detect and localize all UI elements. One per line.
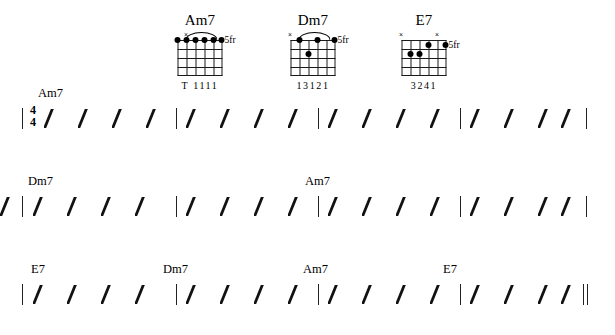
rhythm-slash — [504, 109, 514, 128]
fret-line — [402, 67, 447, 68]
barline-end — [586, 196, 587, 217]
barline — [22, 196, 23, 217]
finger-dot — [184, 37, 190, 43]
staff-system-3: E7 Dm7 Am7 E7 — [0, 262, 615, 320]
muted-string-x-icon: × — [435, 31, 439, 38]
slash-notation-row — [0, 192, 615, 222]
fret-line — [178, 67, 223, 68]
chord-diagram-am7[interactable]: Am7 — [145, 12, 255, 91]
finger-dot — [211, 37, 217, 43]
muted-string-x-icon: × — [399, 31, 403, 38]
chord-diagram-name: E7 — [369, 12, 479, 28]
rhythm-slash — [254, 109, 264, 128]
rhythm-slash — [362, 109, 372, 128]
rhythm-slash — [101, 197, 111, 216]
rhythm-slash — [288, 285, 298, 304]
chord-diagram-grid: × × 5fr — [402, 40, 447, 76]
chord-diagram-name: Am7 — [145, 12, 255, 28]
fret-line — [402, 49, 447, 50]
chord-label: Am7 — [38, 86, 63, 100]
fret-line — [402, 40, 447, 41]
barline — [22, 108, 23, 129]
chord-label-row: Dm7 Am7 — [0, 174, 615, 192]
rhythm-slash — [561, 197, 571, 216]
finger-dot — [202, 37, 208, 43]
rhythm-slash — [470, 109, 480, 128]
rhythm-slash — [33, 197, 43, 216]
muted-string-x-icon: × — [288, 31, 292, 38]
rhythm-slash — [135, 285, 145, 304]
fret-line — [178, 75, 223, 76]
fret-line — [291, 75, 336, 76]
rhythm-slash — [561, 285, 571, 304]
rhythm-slash — [504, 285, 514, 304]
barline — [460, 108, 461, 129]
rhythm-slash — [504, 197, 514, 216]
fret-line — [402, 75, 447, 76]
rhythm-slash — [146, 109, 156, 128]
staff-system-2: Dm7 Am7 — [0, 174, 615, 232]
final-barline — [583, 284, 584, 305]
fretboard-grid: × × 5fr — [402, 40, 447, 76]
chord-diagram-name: Dm7 — [258, 12, 368, 28]
barline-end — [586, 108, 587, 129]
chord-label: E7 — [31, 262, 45, 276]
fret-line — [291, 49, 336, 50]
rhythm-slash — [470, 197, 480, 216]
rhythm-slash — [67, 285, 77, 304]
chord-label: Dm7 — [163, 262, 188, 276]
fret-position-label: 5fr — [449, 41, 460, 51]
barline — [176, 108, 177, 129]
rhythm-slash — [254, 197, 264, 216]
finger-dot — [193, 37, 199, 43]
rhythm-slash — [470, 285, 480, 304]
rhythm-slash — [362, 285, 372, 304]
chord-diagram-grid-wrap: × 5fr — [145, 30, 255, 76]
rhythm-slash — [538, 285, 548, 304]
barline — [318, 108, 319, 129]
fretboard-grid: × 5fr — [178, 40, 223, 76]
rhythm-slash — [44, 109, 54, 128]
rhythm-slash — [430, 109, 440, 128]
barline — [460, 196, 461, 217]
fret-position-label: 5fr — [225, 36, 236, 46]
rhythm-slash — [220, 197, 230, 216]
chord-diagram-grid: × 5fr — [291, 40, 336, 76]
rhythm-slash — [186, 109, 196, 128]
chord-label-row: Am7 — [0, 86, 615, 104]
rhythm-slash — [288, 197, 298, 216]
fret-line — [178, 58, 223, 59]
rhythm-slash — [561, 109, 571, 128]
barline — [460, 284, 461, 305]
barline — [176, 196, 177, 217]
rhythm-slash — [328, 109, 338, 128]
finger-dot — [306, 51, 312, 57]
rhythm-slash — [254, 285, 264, 304]
barline — [318, 284, 319, 305]
chord-diagram-grid-wrap: × 5fr — [258, 30, 368, 76]
rhythm-slash — [328, 197, 338, 216]
rhythm-slash — [430, 285, 440, 304]
chord-label: Dm7 — [28, 174, 53, 188]
slash-notation-row — [0, 280, 615, 310]
rhythm-slash — [396, 285, 406, 304]
chord-diagram-e7[interactable]: E7 × — [369, 12, 479, 91]
rhythm-slash — [186, 197, 196, 216]
rhythm-slash — [135, 197, 145, 216]
rhythm-slash — [78, 109, 88, 128]
chord-diagram-dm7[interactable]: Dm7 — [258, 12, 368, 91]
rhythm-slash — [33, 285, 43, 304]
rhythm-slash — [362, 197, 372, 216]
rhythm-slash — [288, 109, 298, 128]
rhythm-slash — [186, 285, 196, 304]
chord-label-row: E7 Dm7 Am7 E7 — [0, 262, 615, 280]
rhythm-slash — [538, 109, 548, 128]
chord-label: E7 — [443, 262, 457, 276]
fret-line — [402, 58, 447, 59]
rhythm-slash — [538, 197, 548, 216]
finger-dot — [175, 37, 181, 43]
rhythm-slash — [328, 285, 338, 304]
chord-chart-sheet: Am7 — [0, 0, 615, 335]
final-barline — [587, 284, 588, 305]
fret-line — [291, 58, 336, 59]
